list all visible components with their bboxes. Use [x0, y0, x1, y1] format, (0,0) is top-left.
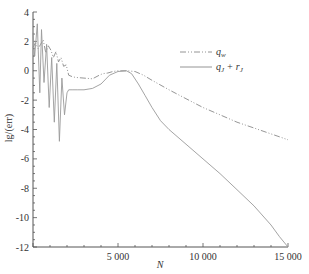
legend-label-qj-rj: qJ + rJ	[216, 61, 244, 74]
y-axis-title: lg/(err)	[3, 114, 15, 142]
legend-label-qw: qw	[216, 46, 226, 59]
y-tick-label: -10	[16, 212, 29, 223]
y-tick-label: -12	[16, 242, 29, 253]
y-tick-label: 2	[24, 36, 29, 47]
y-tick-label: -8	[21, 183, 29, 194]
series-qj-rj-line	[33, 24, 288, 247]
chart-canvas: 420-2-4-6-8-10-125 00010 00015 000 qw qJ…	[0, 0, 309, 274]
x-tick-label: 5 000	[107, 251, 130, 262]
y-tick-label: 0	[24, 65, 29, 76]
x-axis-title: N	[156, 259, 165, 270]
x-tick-label: 10 000	[189, 251, 217, 262]
y-tick-label: -2	[21, 95, 29, 106]
series-group	[33, 24, 288, 247]
axes: 420-2-4-6-8-10-125 00010 00015 000	[16, 7, 302, 263]
legend: qw qJ + rJ	[180, 46, 244, 74]
y-tick-label: -4	[21, 124, 29, 135]
x-tick-label: 15 000	[274, 251, 302, 262]
y-tick-label: 4	[24, 7, 29, 18]
y-tick-label: -6	[21, 153, 29, 164]
